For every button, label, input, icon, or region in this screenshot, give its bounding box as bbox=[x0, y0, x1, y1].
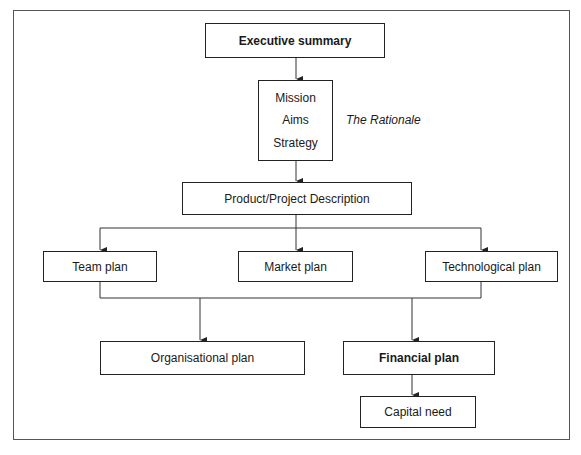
technological-plan-label: Technological plan bbox=[442, 260, 541, 274]
strategy-label: Strategy bbox=[273, 136, 318, 150]
team-plan-node: Team plan bbox=[43, 251, 157, 282]
financial-plan-node: Financial plan bbox=[343, 341, 495, 375]
mission-label: Mission bbox=[275, 91, 316, 105]
team-plan-label: Team plan bbox=[72, 260, 127, 274]
capital-need-node: Capital need bbox=[360, 396, 476, 428]
product-description-node: Product/Project Description bbox=[182, 182, 412, 215]
market-plan-label: Market plan bbox=[264, 260, 327, 274]
rationale-note: The Rationale bbox=[346, 113, 421, 127]
executive-summary-label: Executive summary bbox=[239, 34, 352, 48]
rationale-node: Mission Aims Strategy bbox=[258, 80, 333, 161]
product-description-label: Product/Project Description bbox=[224, 192, 369, 206]
technological-plan-node: Technological plan bbox=[425, 251, 558, 282]
connector-lines bbox=[0, 0, 581, 455]
executive-summary-node: Executive summary bbox=[205, 23, 385, 58]
aims-label: Aims bbox=[282, 113, 309, 127]
market-plan-node: Market plan bbox=[238, 251, 353, 282]
financial-plan-label: Financial plan bbox=[379, 351, 459, 365]
organisational-plan-node: Organisational plan bbox=[100, 341, 305, 375]
organisational-plan-label: Organisational plan bbox=[151, 351, 254, 365]
capital-need-label: Capital need bbox=[384, 405, 451, 419]
